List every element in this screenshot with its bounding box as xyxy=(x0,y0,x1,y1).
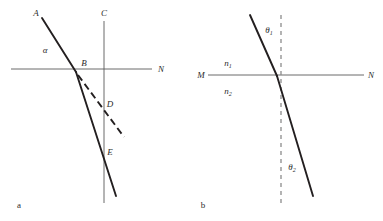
panel-b: M N n1 n2 θ1 θ2 b xyxy=(196,15,375,210)
panel-a-dashed-ray xyxy=(78,75,124,137)
panel-a-label-c: C xyxy=(101,8,108,18)
panel-a-label-d: D xyxy=(106,99,114,109)
panel-a-caption: a xyxy=(17,200,21,210)
refraction-diagram-figure: A C B N α D E a M N n1 n2 θ1 xyxy=(0,0,383,221)
panel-a-refracted-ray xyxy=(76,72,116,196)
panel-b-label-theta1: θ1 xyxy=(265,25,272,36)
panel-b-label-m: M xyxy=(196,70,205,80)
panel-a-label-n: N xyxy=(157,64,165,74)
panel-b-incident-ray xyxy=(250,15,277,76)
panel-a-label-alpha: α xyxy=(43,45,48,55)
panel-b-label-theta2: θ2 xyxy=(288,162,295,173)
panel-b-refracted-ray xyxy=(277,76,313,196)
panel-b-caption: b xyxy=(201,200,206,210)
panel-a-label-b: B xyxy=(81,58,87,68)
panel-b-label-n2: n2 xyxy=(224,86,232,97)
panel-a-label-e: E xyxy=(106,147,113,157)
panel-a: A C B N α D E a xyxy=(11,8,165,210)
diagram-svg: A C B N α D E a M N n1 n2 θ1 xyxy=(0,0,383,221)
panel-b-label-n: N xyxy=(367,70,375,80)
panel-a-label-a: A xyxy=(32,8,39,18)
panel-b-label-n1: n1 xyxy=(224,58,232,69)
